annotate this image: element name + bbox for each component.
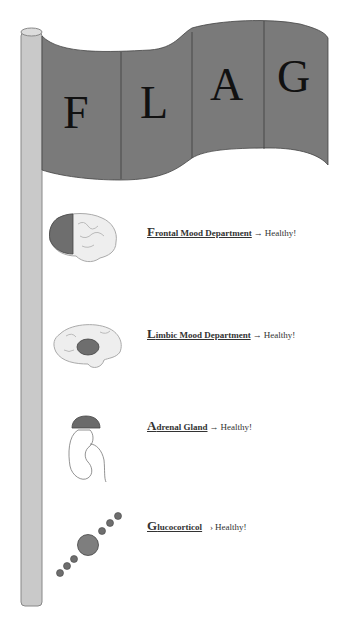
glucocorticoid-molecule-icon xyxy=(52,508,124,580)
limbic-brain-icon xyxy=(52,322,126,372)
item-frontal: Frontal Mood Department→Healthy! xyxy=(147,224,296,240)
frontal-brain-icon xyxy=(46,212,120,264)
flag-letter-g: G xyxy=(277,50,310,103)
flag-letter-f: F xyxy=(63,86,89,139)
flag-letter-a: A xyxy=(210,58,243,111)
item-adrenal: Adrenal Gland→Healthy! xyxy=(147,418,252,434)
item-limbic: Limbic Mood Department→Healthy! xyxy=(147,326,295,342)
adrenal-kidney-icon xyxy=(64,414,110,484)
item-glucocorticoid: Glucocorticol›Healthy! xyxy=(147,518,247,534)
flag-letter-l: L xyxy=(140,76,168,129)
